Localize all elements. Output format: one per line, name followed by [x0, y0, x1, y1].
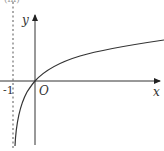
y-axis-label: y	[22, 14, 29, 26]
part-label: (iii)	[4, 0, 20, 5]
origin-label: O	[39, 85, 49, 97]
log-curve	[15, 40, 164, 146]
x-axis-label: x	[153, 86, 160, 98]
asymptote-label: -1	[3, 85, 14, 97]
